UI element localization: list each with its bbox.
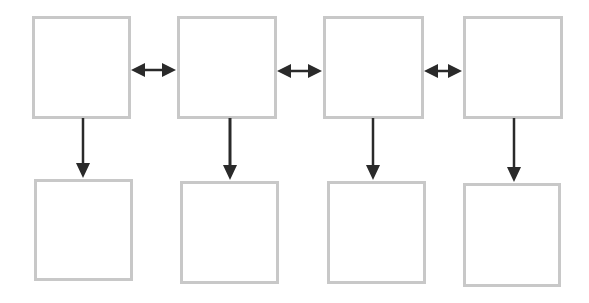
bidirectional-arrow-icon <box>277 64 322 78</box>
down-arrow-icon <box>223 118 237 180</box>
down-arrow-icon <box>507 118 521 182</box>
down-arrow-icon <box>366 118 380 180</box>
down-arrow-icon <box>76 118 90 178</box>
bidirectional-arrow-icon <box>424 64 462 78</box>
bidirectional-arrow-icon <box>131 63 176 77</box>
connectors <box>0 0 589 303</box>
